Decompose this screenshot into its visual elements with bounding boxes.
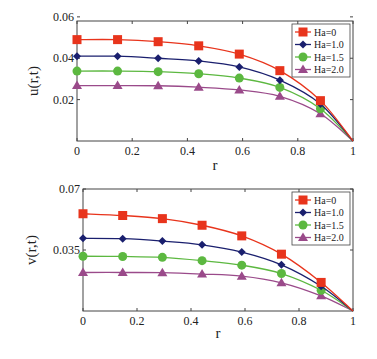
triangle-marker: [118, 267, 128, 276]
circle-marker: [79, 252, 88, 261]
square-marker: [235, 50, 244, 59]
square-marker: [316, 96, 325, 105]
legend: Ha=0Ha=1.0Ha=1.5Ha=2.0: [292, 192, 350, 245]
circle-marker: [73, 67, 82, 76]
series-line: [77, 71, 353, 141]
legend-label: Ha=1.0: [314, 39, 344, 50]
y-tick-label: 0.07: [59, 182, 80, 196]
x-axis-label: r: [213, 157, 218, 173]
square-marker: [299, 196, 308, 205]
x-tick-label: 0.8: [292, 314, 307, 328]
legend-label: Ha=1.5: [314, 52, 344, 63]
circle-marker: [113, 67, 122, 76]
diamond-marker: [73, 52, 81, 60]
square-marker: [299, 28, 308, 37]
x-tick-label: 0.4: [184, 314, 199, 328]
diamond-marker: [119, 235, 127, 243]
subplot-1: 00.20.40.60.810.020.040.06ru(r,t)Ha=0Ha=…: [25, 10, 356, 173]
x-tick-label: 0.6: [235, 144, 250, 158]
subplot-2: 00.20.40.60.810.0350.07rv(r,t)Ha=0Ha=1.0…: [23, 182, 356, 341]
square-marker: [118, 211, 127, 220]
circle-marker: [198, 256, 207, 265]
series-ha-2-0: [78, 267, 353, 311]
triangle-marker: [157, 268, 167, 277]
square-marker: [237, 231, 246, 240]
y-tick-label: 0.06: [53, 10, 74, 24]
y-axis-label: v(r,t): [23, 235, 40, 265]
series-ha-1-5: [79, 252, 354, 311]
y-tick-label: 0.02: [53, 93, 74, 107]
diamond-marker: [238, 248, 246, 256]
series-ha-2-0: [72, 81, 353, 141]
triangle-marker: [153, 81, 163, 90]
legend-label: Ha=0: [314, 27, 336, 38]
circle-marker: [118, 252, 127, 261]
square-marker: [317, 278, 326, 287]
circle-marker: [299, 221, 308, 230]
diamond-marker: [79, 234, 87, 242]
series-ha-1-5: [73, 67, 354, 141]
diamond-marker: [154, 54, 162, 62]
x-axis-label: r: [216, 325, 221, 341]
y-tick-label: 0.04: [53, 51, 74, 65]
triangle-marker: [113, 81, 123, 90]
x-tick-label: 0: [80, 314, 86, 328]
series-line: [77, 86, 353, 141]
circle-marker: [299, 53, 308, 62]
diamond-marker: [198, 241, 206, 249]
x-tick-label: 0.2: [130, 314, 145, 328]
circle-marker: [235, 74, 244, 83]
square-marker: [194, 41, 203, 50]
x-tick-label: 1: [350, 314, 356, 328]
legend-label: Ha=2.0: [314, 64, 344, 75]
x-tick-label: 0: [74, 144, 80, 158]
circle-marker: [237, 261, 246, 270]
series-line: [83, 256, 353, 311]
circle-marker: [275, 83, 284, 92]
diamond-marker: [277, 261, 285, 269]
square-marker: [275, 66, 284, 75]
triangle-marker: [78, 267, 88, 276]
square-marker: [113, 35, 122, 44]
x-tick-label: 0.4: [180, 144, 195, 158]
x-tick-label: 0.2: [125, 144, 140, 158]
circle-marker: [158, 253, 167, 262]
legend-label: Ha=0: [314, 195, 336, 206]
square-marker: [79, 209, 88, 218]
circle-marker: [194, 69, 203, 78]
y-axis-label: u(r,t): [25, 66, 42, 96]
legend-label: Ha=1.5: [314, 220, 344, 231]
diamond-marker: [235, 63, 243, 71]
x-tick-label: 0.8: [290, 144, 305, 158]
series-line: [83, 272, 353, 311]
square-marker: [158, 214, 167, 223]
y-tick-label: 0.035: [53, 243, 80, 257]
x-tick-label: 1: [350, 144, 356, 158]
legend-label: Ha=1.0: [314, 207, 344, 218]
square-marker: [73, 35, 82, 44]
diamond-marker: [158, 237, 166, 245]
diamond-marker: [276, 76, 284, 84]
diamond-marker: [195, 57, 203, 65]
legend: Ha=0Ha=1.0Ha=1.5Ha=2.0: [292, 24, 350, 77]
square-marker: [277, 250, 286, 259]
circle-marker: [154, 67, 163, 76]
square-marker: [198, 221, 207, 230]
triangle-marker: [72, 81, 82, 90]
x-tick-label: 0.6: [238, 314, 253, 328]
figure: 00.20.40.60.810.020.040.06ru(r,t)Ha=0Ha=…: [0, 0, 377, 359]
square-marker: [154, 37, 163, 46]
diamond-marker: [114, 52, 122, 60]
legend-label: Ha=2.0: [314, 232, 344, 243]
circle-marker: [277, 269, 286, 278]
